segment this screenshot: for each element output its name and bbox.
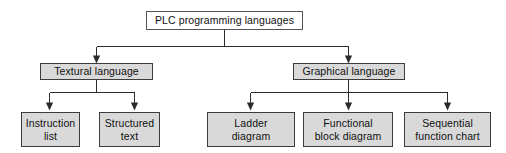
- node-ladder-diagram: Ladder diagram: [207, 112, 295, 147]
- plc-languages-diagram: PLC programming languages Textural langu…: [0, 0, 506, 153]
- node-instruction-list-label: Instruction list: [23, 117, 79, 141]
- arrowhead-ladder-diagram: [247, 103, 254, 111]
- arrowhead-instruction-list: [46, 103, 53, 111]
- node-functional-block-diagram-label: Functional block diagram: [312, 117, 385, 141]
- node-sequential-function-chart: Sequential function chart: [404, 112, 491, 147]
- node-functional-block-diagram: Functional block diagram: [303, 112, 393, 147]
- node-graphical-language-label: Graphical language: [300, 65, 399, 77]
- node-root-plc-programming-languages: PLC programming languages: [146, 11, 303, 30]
- node-textural-language: Textural language: [40, 63, 153, 80]
- node-instruction-list: Instruction list: [21, 112, 80, 147]
- node-graphical-language: Graphical language: [293, 63, 405, 80]
- node-structured-text-label: Structured text: [102, 117, 157, 141]
- node-ladder-diagram-label: Ladder diagram: [229, 117, 274, 141]
- arrowhead-structured-text: [131, 103, 138, 111]
- node-sequential-function-chart-label: Sequential function chart: [412, 117, 482, 141]
- node-structured-text: Structured text: [99, 112, 160, 147]
- arrowhead-sequential-function-chart: [444, 103, 451, 111]
- arrowhead-functional-block-diagram: [345, 103, 352, 111]
- node-textural-language-label: Textural language: [51, 65, 142, 77]
- node-root-label: PLC programming languages: [152, 14, 297, 26]
